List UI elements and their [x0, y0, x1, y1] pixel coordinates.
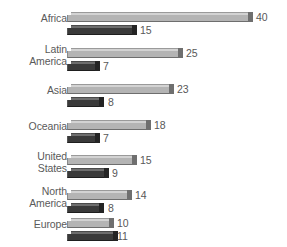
- bar-end-cap: [169, 84, 174, 94]
- bar-series-2: [67, 168, 109, 177]
- bar-series-1: [67, 48, 183, 57]
- bar-front-face: [67, 51, 179, 58]
- value-label-series-1: 40: [256, 12, 268, 23]
- category-label: Asia: [1, 85, 67, 97]
- bar-series-1: [67, 155, 137, 164]
- category-label: Europe: [1, 219, 67, 231]
- value-label-series-1: 18: [154, 120, 166, 131]
- value-label-series-1: 25: [186, 48, 198, 59]
- bar-series-1: [67, 190, 132, 199]
- bar-front-face: [67, 171, 105, 178]
- bar-chart: Africa 40 15 Latin America 25 7: [0, 0, 287, 247]
- bar-front-face: [67, 193, 128, 200]
- bar-front-face: [67, 158, 133, 165]
- value-label-series-1: 10: [117, 218, 129, 229]
- value-label-series-2: 7: [103, 133, 109, 144]
- value-label-series-2: 8: [108, 203, 114, 214]
- chart-row: United States 15 9: [0, 155, 287, 189]
- bar-end-cap: [178, 48, 183, 58]
- bar-front-face: [67, 87, 170, 94]
- value-label-series-2: 11: [117, 231, 128, 242]
- value-label-series-2: 9: [112, 168, 118, 179]
- bar-end-cap: [95, 61, 100, 71]
- bar-series-1: [67, 84, 174, 93]
- bar-series-1: [67, 120, 151, 129]
- bar-front-face: [67, 64, 96, 71]
- category-label: Latin America: [1, 44, 67, 67]
- category-label: United States: [1, 151, 67, 174]
- value-label-series-1: 23: [177, 84, 189, 95]
- bar-series-2: [67, 203, 104, 212]
- bar-end-cap: [109, 218, 114, 228]
- chart-row: Asia 23 8: [0, 84, 287, 118]
- value-label-series-1: 15: [140, 155, 152, 166]
- value-label-series-1: 14: [135, 190, 147, 201]
- category-label: North America: [1, 186, 67, 209]
- bar-front-face: [67, 15, 249, 22]
- bar-end-cap: [95, 133, 100, 143]
- bar-series-2: [67, 97, 104, 106]
- bar-front-face: [67, 123, 147, 130]
- bar-end-cap: [132, 25, 137, 35]
- bar-front-face: [67, 100, 100, 107]
- bar-end-cap: [248, 12, 253, 22]
- bar-end-cap: [132, 155, 137, 165]
- bar-front-face: [67, 221, 110, 228]
- bar-front-face: [67, 206, 100, 213]
- bar-series-2: [67, 25, 137, 34]
- bar-series-2: [67, 231, 118, 240]
- bar-end-cap: [99, 97, 104, 107]
- chart-row: Latin America 25 7: [0, 48, 287, 82]
- value-label-series-2: 15: [140, 25, 152, 36]
- chart-row: Europe 10 11: [0, 218, 287, 247]
- category-label: Oceania: [1, 121, 67, 133]
- bar-end-cap: [127, 190, 132, 200]
- bar-end-cap: [146, 120, 151, 130]
- chart-row: Africa 40 15: [0, 12, 287, 46]
- bar-front-face: [67, 234, 114, 241]
- bar-end-cap: [99, 203, 104, 213]
- value-label-series-2: 8: [108, 97, 114, 108]
- bar-series-2: [67, 61, 100, 70]
- category-label: Africa: [1, 13, 67, 25]
- bar-series-2: [67, 133, 100, 142]
- value-label-series-2: 7: [103, 61, 109, 72]
- bar-end-cap: [104, 168, 109, 178]
- bar-front-face: [67, 28, 133, 35]
- bar-series-1: [67, 12, 253, 21]
- chart-row: Oceania 18 7: [0, 120, 287, 154]
- bar-front-face: [67, 136, 96, 143]
- bar-series-1: [67, 218, 114, 227]
